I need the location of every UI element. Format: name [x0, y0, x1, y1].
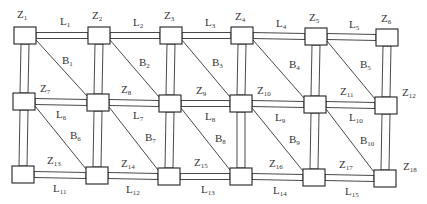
line-label-l15: L15	[345, 185, 359, 199]
vertical-bar	[310, 113, 319, 169]
bus-node-z2	[88, 27, 110, 44]
line-label-l9: L9	[275, 111, 286, 125]
line-bar	[36, 33, 88, 39]
branch-label-b9: B9	[289, 133, 300, 147]
line-bar	[108, 173, 158, 180]
bus-node-z14	[86, 167, 108, 184]
bus-node-z7	[13, 93, 35, 110]
line-bar	[325, 175, 374, 182]
branch-label-b7: B7	[145, 131, 156, 145]
line-label-l14: L14	[273, 184, 287, 198]
node-label-z7: Z7	[40, 82, 51, 96]
line-label-l1: L1	[60, 15, 71, 29]
line-bar	[181, 101, 230, 107]
vertical-bar	[381, 114, 390, 170]
line-label-l12: L12	[126, 183, 140, 197]
bus-node-z16	[230, 168, 252, 185]
vertical-bar	[237, 112, 245, 168]
bus-node-z13	[12, 166, 34, 183]
node-label-z15: Z15	[194, 156, 208, 170]
diagonal-branch	[110, 40, 159, 97]
bus-node-z9	[159, 95, 181, 112]
branch-label-b2: B2	[139, 56, 150, 70]
connection-bars	[19, 33, 391, 182]
line-label-l10: L10	[349, 111, 363, 125]
vertical-bar	[382, 46, 391, 97]
node-label-z11: Z11	[340, 85, 354, 99]
node-label-z4: Z4	[235, 10, 246, 24]
line-bar	[252, 174, 303, 181]
line-bar	[180, 174, 230, 180]
bus-node-z3	[160, 27, 182, 44]
node-label-z3: Z3	[164, 9, 175, 23]
vertical-bar	[237, 44, 246, 95]
line-label-l13: L13	[201, 183, 215, 197]
node-label-z2: Z2	[92, 9, 103, 23]
line-bar	[326, 102, 375, 109]
branch-label-b10: B10	[360, 134, 375, 148]
node-label-z16: Z16	[269, 157, 283, 171]
line-bar	[182, 33, 231, 39]
branch-label-b4: B4	[289, 58, 300, 72]
node-label-z13: Z13	[47, 154, 61, 168]
line-label-l6: L6	[56, 108, 67, 122]
bus-node-z4	[231, 27, 253, 44]
node-label-z18: Z18	[403, 160, 417, 174]
vertical-bar	[311, 45, 320, 96]
line-label-l7: L7	[133, 109, 144, 123]
line-label-l4: L4	[276, 17, 287, 31]
bus-node-z10	[230, 95, 252, 112]
node-label-z1: Z1	[17, 8, 28, 22]
bus-node-z5	[305, 28, 327, 45]
bus-node-z17	[303, 169, 325, 186]
vertical-bar	[20, 44, 29, 93]
vertical-bar	[93, 111, 102, 167]
line-bar	[327, 34, 376, 41]
branch-label-b1: B1	[62, 54, 73, 68]
power-grid-diagram: Z1Z2Z3Z4Z5Z6Z7Z8Z9Z10Z11Z12Z13Z14Z15Z16Z…	[0, 0, 427, 204]
vertical-bar	[94, 44, 103, 94]
line-label-l11: L11	[53, 182, 67, 196]
branch-label-b5: B5	[360, 58, 371, 72]
node-label-z6: Z6	[381, 12, 392, 26]
vertical-bar	[166, 44, 175, 95]
line-bar	[35, 99, 87, 106]
bus-node-z11	[304, 96, 326, 113]
bus-node-z15	[158, 168, 180, 185]
node-label-z14: Z14	[121, 157, 135, 171]
bus-node-z8	[87, 94, 109, 111]
bus-node-z12	[375, 97, 397, 114]
line-bar	[109, 100, 159, 107]
line-label-l8: L8	[205, 110, 216, 124]
node-label-z8: Z8	[121, 83, 132, 97]
node-label-z5: Z5	[309, 11, 320, 25]
line-label-l5: L5	[349, 18, 360, 32]
line-bar	[252, 101, 304, 108]
line-bar	[34, 172, 86, 179]
line-label-l2: L2	[133, 16, 144, 30]
line-bar	[253, 33, 305, 40]
line-bar	[110, 33, 160, 39]
bus-node-z6	[376, 29, 398, 46]
node-label-z9: Z9	[196, 84, 207, 98]
branch-label-b6: B6	[70, 129, 81, 143]
line-label-l3: L3	[205, 16, 216, 30]
node-label-z17: Z17	[339, 158, 353, 172]
branch-label-b8: B8	[215, 132, 226, 146]
bus-node-z1	[14, 27, 36, 44]
vertical-bar	[19, 110, 28, 166]
node-label-z12: Z12	[402, 86, 416, 100]
node-label-z10: Z10	[257, 84, 271, 98]
branch-label-b3: B3	[212, 56, 223, 70]
bus-node-z18	[374, 170, 396, 187]
vertical-bar	[165, 112, 174, 168]
